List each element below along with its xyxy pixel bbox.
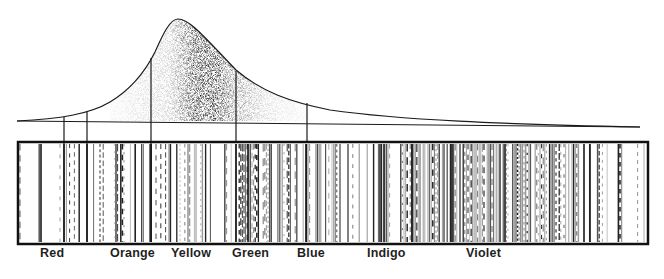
absorption-lines (20, 144, 644, 242)
spectrum-diagram (0, 0, 664, 279)
label-orange: Orange (110, 246, 155, 260)
label-green: Green (232, 246, 269, 260)
curve-shading (110, 15, 310, 125)
spectrum-band (18, 142, 648, 244)
label-red: Red (40, 246, 64, 260)
label-blue: Blue (297, 246, 325, 260)
label-violet: Violet (466, 246, 501, 260)
label-yellow: Yellow (171, 246, 211, 260)
label-indigo: Indigo (367, 246, 406, 260)
